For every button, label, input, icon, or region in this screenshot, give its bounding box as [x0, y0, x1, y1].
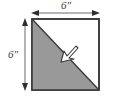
diagram-canvas: 6″ 6″ — [0, 0, 115, 100]
left-dimension-bottom-arrowhead-icon — [22, 83, 28, 91]
square-diagram-figure: 6″ 6″ — [0, 0, 115, 100]
top-dimension-right-arrowhead-icon — [92, 10, 100, 16]
left-dimension-label: 6″ — [8, 48, 19, 60]
left-dimension-line — [22, 18, 28, 91]
left-dimension-top-arrowhead-icon — [22, 18, 28, 26]
top-dimension-left-arrowhead-icon — [31, 10, 39, 16]
top-dimension-label: 6″ — [61, 0, 72, 11]
